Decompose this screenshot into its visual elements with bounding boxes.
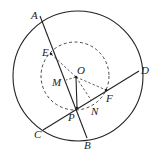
chord-ab: [40, 16, 87, 138]
label-c: C: [34, 128, 42, 140]
outer-circle: [13, 11, 143, 141]
label-p: P: [67, 111, 75, 123]
dash-of: [76, 77, 106, 90]
point-o: [75, 76, 78, 79]
label-d: D: [140, 64, 149, 76]
label-o: O: [77, 64, 85, 76]
point-f: [105, 89, 108, 92]
dash-oe: [51, 54, 76, 77]
dash-on: [76, 77, 91, 100]
label-b: B: [84, 139, 91, 151]
label-e: E: [41, 46, 49, 58]
dash-om: [66, 77, 76, 80]
label-m: M: [51, 76, 62, 88]
point-e: [50, 53, 53, 56]
point-p: [76, 107, 79, 110]
segment-op: [76, 77, 77, 108]
label-n: N: [90, 105, 99, 117]
label-a: A: [30, 9, 38, 21]
label-f: F: [105, 92, 113, 104]
geometry-diagram: A B C D E O M F P N: [0, 0, 156, 156]
